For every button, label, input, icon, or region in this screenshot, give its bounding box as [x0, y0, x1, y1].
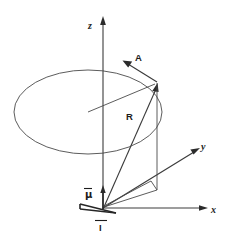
- a-vector-arrowhead: [123, 61, 133, 68]
- base-edge-right: [104, 190, 157, 207]
- loop-radius-line: [88, 84, 155, 112]
- y-axis-label: y: [200, 141, 206, 152]
- x-axis-label: x: [210, 204, 216, 215]
- mu-vector-arrowhead: [100, 185, 105, 193]
- a-vector-label: A: [135, 52, 142, 63]
- base-edge-link: [151, 181, 157, 190]
- mu-vector-label: µ: [85, 189, 93, 200]
- a-vector-line: [128, 64, 157, 82]
- z-axis-label: z: [87, 20, 92, 31]
- figure-root: z x y A R µ I: [0, 0, 237, 236]
- x-axis-arrowhead: [199, 205, 208, 211]
- r-vector-line: [104, 89, 156, 207]
- base-edge-upper: [104, 181, 151, 206]
- current-loop-diagram: z x y A R µ I: [0, 0, 237, 236]
- z-axis-arrowhead: [100, 16, 106, 25]
- current-label: I: [99, 222, 102, 233]
- r-vector-label: R: [126, 111, 133, 122]
